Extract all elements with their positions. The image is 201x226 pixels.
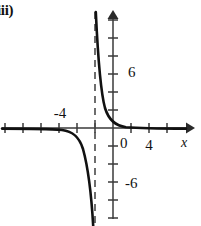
x-tick-label-0: 0 [120, 135, 128, 151]
y-tick-label--6: -6 [125, 175, 138, 191]
coordinate-plot: -4 0 4 6 -6 x [0, 0, 201, 226]
graph-figure: iii) [0, 0, 201, 226]
x-axis-arrow-icon [186, 123, 195, 134]
y-axis-arrow-icon [108, 10, 119, 19]
curve-left-branch [2, 129, 93, 226]
x-tick-label--4: -4 [54, 105, 67, 121]
y-tick-label-6: 6 [128, 64, 136, 80]
curve-right-branch [96, 12, 186, 129]
x-tick-label-4: 4 [145, 137, 153, 153]
x-axis-label: x [180, 135, 188, 150]
